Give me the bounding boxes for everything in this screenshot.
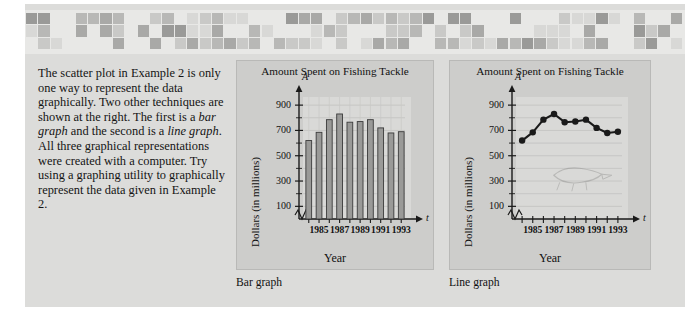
- mosaic-tile: [299, 13, 310, 24]
- mosaic-tile: [559, 13, 570, 24]
- bar: [357, 122, 363, 219]
- bar-graph-xlabel: Year: [237, 251, 433, 266]
- mosaic-tile: [398, 13, 409, 24]
- mosaic-tile: [113, 25, 124, 36]
- x-axis-tick-label: 1993: [601, 224, 635, 235]
- mosaic-tile: [113, 38, 124, 49]
- mosaic-tile: [460, 38, 471, 49]
- mosaic-tile: [38, 38, 49, 49]
- mosaic-tile: [398, 25, 409, 36]
- mosaic-tile: [100, 13, 111, 24]
- mosaic-tile: [162, 25, 173, 36]
- mosaic-tile: [212, 38, 223, 49]
- term-line-graph: line graph: [167, 124, 218, 138]
- line-graph-title: Amount Spent on Fishing Tackle: [450, 65, 650, 77]
- mosaic-tile: [175, 25, 186, 36]
- data-point: [519, 137, 525, 143]
- mosaic-tile: [336, 25, 347, 36]
- mosaic-tile: [596, 13, 607, 24]
- mosaic-tile: [559, 25, 570, 36]
- y-axis-tick-label: 700: [237, 124, 291, 135]
- mosaic-tile: [200, 13, 211, 24]
- mosaic-tile: [522, 38, 533, 49]
- mosaic-tile: [559, 38, 570, 49]
- mosaic-tile: [237, 13, 248, 24]
- mosaic-tile: [534, 38, 545, 49]
- mosaic-tile: [187, 25, 198, 36]
- line-graph-canvas: [450, 61, 650, 269]
- mosaic-tile: [348, 13, 359, 24]
- y-axis-tick-label: 100: [450, 200, 504, 211]
- page-root: The scatter plot in Example 2 is only on…: [0, 0, 696, 311]
- body-paragraph: The scatter plot in Example 2 is only on…: [38, 66, 228, 212]
- mosaic-tile: [237, 38, 248, 49]
- x-axis-tick-label: 1993: [384, 224, 418, 235]
- mosaic-tile: [671, 13, 682, 24]
- bar: [398, 132, 404, 219]
- mosaic-tile: [162, 13, 173, 24]
- y-axis-tick-label: 900: [450, 99, 504, 110]
- mosaic-tile: [286, 38, 297, 49]
- y-axis-tick-label: 500: [450, 150, 504, 161]
- mosaic-tile: [634, 38, 645, 49]
- mosaic-tile: [286, 13, 297, 24]
- data-point: [604, 130, 610, 136]
- y-axis-tick-label: 900: [237, 99, 291, 110]
- mosaic-tile: [410, 13, 421, 24]
- mosaic-tile: [336, 38, 347, 49]
- mosaic-tile: [299, 38, 310, 49]
- mosaic-tile: [311, 13, 322, 24]
- mosaic-tile: [76, 13, 87, 24]
- y-axis-symbol: A: [515, 71, 521, 82]
- bar: [388, 133, 394, 219]
- mosaic-tile: [584, 25, 595, 36]
- mosaic-tile: [336, 13, 347, 24]
- bar: [326, 120, 332, 219]
- mosaic-tile: [200, 25, 211, 36]
- mosaic-tile: [249, 38, 260, 49]
- mosaic-tile: [497, 38, 508, 49]
- mosaic-tile: [212, 13, 223, 24]
- mosaic-tile: [584, 38, 595, 49]
- data-point: [615, 128, 621, 134]
- mosaic-tile: [51, 38, 62, 49]
- mosaic-tile: [634, 13, 645, 24]
- mosaic-tile: [311, 38, 322, 49]
- bar-graph-title: Amount Spent on Fishing Tackle: [237, 65, 433, 77]
- data-point: [551, 111, 557, 117]
- bar-graph-caption: Bar graph: [236, 276, 282, 289]
- mosaic-tile: [38, 13, 49, 24]
- mosaic-tile: [609, 13, 620, 24]
- mosaic-tile: [26, 13, 37, 24]
- mosaic-tile: [423, 13, 434, 24]
- mosaic-tile: [485, 38, 496, 49]
- bar: [347, 122, 353, 219]
- mosaic-tile: [274, 38, 285, 49]
- mosaic-tile: [646, 38, 657, 49]
- bar-graph-panel: Amount Spent on Fishing Tackle Dollars (…: [236, 60, 434, 270]
- mosaic-tile: [547, 38, 558, 49]
- mosaic-tile: [572, 13, 583, 24]
- mosaic-tile: [249, 25, 260, 36]
- mosaic-tile: [658, 25, 669, 36]
- mosaic-tile: [410, 25, 421, 36]
- mosaic-tile: [88, 13, 99, 24]
- mosaic-tile: [547, 25, 558, 36]
- y-axis-symbol: A: [302, 71, 308, 82]
- mosaic-tile: [113, 13, 124, 24]
- data-point: [583, 116, 589, 122]
- mosaic-tile: [460, 13, 471, 24]
- mosaic-tile: [634, 25, 645, 36]
- bar: [337, 114, 343, 219]
- mosaic-tile: [435, 25, 446, 36]
- mosaic-tile: [510, 13, 521, 24]
- y-axis-tick-label: 300: [450, 175, 504, 186]
- x-axis-symbol: t: [426, 212, 429, 223]
- line-graph-caption: Line graph: [449, 276, 500, 289]
- mosaic-tile: [373, 38, 384, 49]
- mosaic-tile: [386, 38, 397, 49]
- mosaic-tile: [187, 38, 198, 49]
- mosaic-tile: [324, 25, 335, 36]
- bar: [378, 128, 384, 219]
- mosaic-tile: [472, 38, 483, 49]
